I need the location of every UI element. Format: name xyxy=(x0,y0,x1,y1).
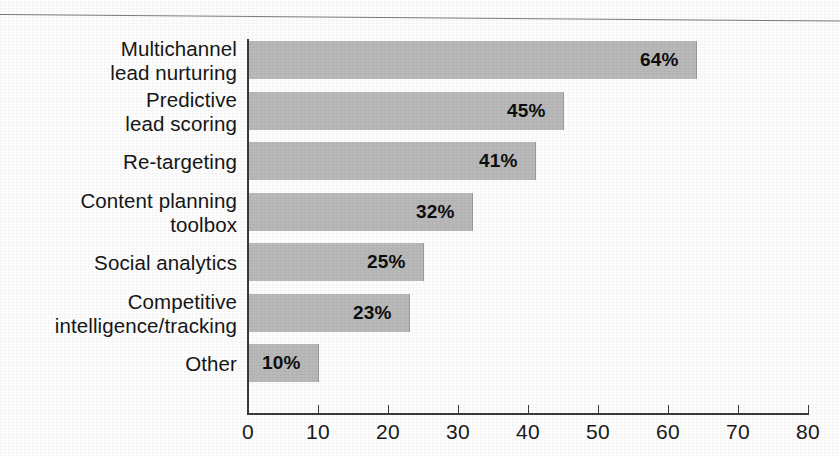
x-axis-tick-label: 10 xyxy=(295,420,341,444)
bar-row: Competitive intelligence/tracking23% xyxy=(0,294,840,332)
bar-category-label: Content planning toolbox xyxy=(80,189,237,237)
y-axis-line xyxy=(247,39,249,414)
x-axis-tick-label: 50 xyxy=(575,420,621,444)
bar-value-label: 32% xyxy=(416,201,455,223)
x-axis-tick xyxy=(808,405,809,414)
x-axis-tick-label: 0 xyxy=(225,420,271,444)
bar-category-label: Other xyxy=(185,352,237,376)
bar-category-label: Re-targeting xyxy=(123,150,237,174)
x-axis-tick xyxy=(528,405,529,414)
x-axis-tick xyxy=(738,405,739,414)
bar-value-label: 64% xyxy=(640,49,679,71)
bar-row: Content planning toolbox32% xyxy=(0,193,840,231)
plot-area: Multichannel lead nurturing64%Predictive… xyxy=(0,0,840,456)
x-axis-tick-label: 60 xyxy=(645,420,691,444)
bar-value-label: 23% xyxy=(353,302,392,324)
x-axis-tick xyxy=(668,405,669,414)
x-axis-tick-label: 30 xyxy=(435,420,481,444)
x-axis-tick xyxy=(318,405,319,414)
bar-value-label: 41% xyxy=(479,150,518,172)
bar-category-label: Multichannel lead nurturing xyxy=(110,37,237,85)
bar-value-label: 25% xyxy=(367,251,406,273)
x-axis-tick-label: 40 xyxy=(505,420,551,444)
bar-chart-figure: Multichannel lead nurturing64%Predictive… xyxy=(0,0,840,456)
x-axis-tick xyxy=(598,405,599,414)
bar-value-label: 10% xyxy=(262,352,301,374)
bar-category-label: Social analytics xyxy=(94,251,237,275)
x-axis-tick xyxy=(458,405,459,414)
x-axis-tick xyxy=(248,405,249,414)
x-axis-tick xyxy=(388,405,389,414)
bar-category-label: Predictive lead scoring xyxy=(125,88,237,136)
bar-row: Other10% xyxy=(0,344,840,382)
bar-row: Social analytics25% xyxy=(0,243,840,281)
bar xyxy=(249,41,697,79)
bar-row: Predictive lead scoring45% xyxy=(0,92,840,130)
bar-row: Multichannel lead nurturing64% xyxy=(0,41,840,79)
bar-category-label: Competitive intelligence/tracking xyxy=(55,290,237,338)
x-axis-tick-label: 80 xyxy=(785,420,831,444)
bar-row: Re-targeting41% xyxy=(0,142,840,180)
x-axis-tick-label: 20 xyxy=(365,420,411,444)
bar-value-label: 45% xyxy=(507,100,546,122)
x-axis-tick-label: 70 xyxy=(715,420,761,444)
